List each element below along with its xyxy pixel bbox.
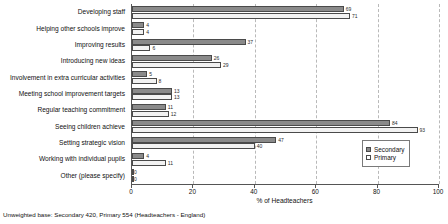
bar-primary — [132, 62, 221, 68]
bar-secondary — [132, 104, 166, 110]
bar-row: 8493 — [132, 119, 439, 135]
bar-value-label: 6 — [150, 45, 155, 51]
bar-group: 26 — [132, 55, 439, 61]
legend-label: Secondary — [374, 146, 405, 153]
bar-secondary — [132, 120, 390, 126]
bar-value-label: 69 — [344, 6, 352, 12]
bar-group: 11 — [132, 104, 439, 110]
bar-row: 2629 — [132, 53, 439, 69]
category-label: Regular teaching commitment — [0, 106, 125, 114]
bar-value-label: 93 — [418, 127, 426, 133]
x-tick-label: 40 — [250, 188, 257, 196]
x-tick-label: 0 — [129, 188, 133, 196]
category-label: Improving results — [0, 41, 125, 49]
gridline — [439, 4, 440, 184]
bar-group: 13 — [132, 88, 439, 94]
bar-primary — [132, 160, 166, 166]
category-label: Meeting school improvement targets — [0, 90, 125, 98]
x-tick-label: 100 — [433, 188, 444, 196]
bar-secondary — [132, 153, 144, 159]
bar-secondary — [132, 39, 246, 45]
bar-group: 6 — [132, 45, 439, 51]
category-axis-labels: Developing staffHelping other schools im… — [0, 4, 128, 184]
x-tick-label: 20 — [189, 188, 196, 196]
bar-row: 1313 — [132, 86, 439, 102]
category-label: Working with individual pupils — [0, 155, 125, 163]
bar-group: 37 — [132, 39, 439, 45]
x-axis-ticks: 020406080100 — [131, 185, 438, 197]
bar-value-label: 40 — [255, 143, 263, 149]
x-tick-label: 60 — [312, 188, 319, 196]
bar-secondary — [132, 88, 172, 94]
bar-value-label: 11 — [166, 104, 173, 110]
bar-group: 84 — [132, 120, 439, 126]
footnote: Unweighted base: Secondary 420, Primary … — [3, 211, 205, 219]
category-label: Introducing new ideas — [0, 57, 125, 65]
bar-chart: Developing staffHelping other schools im… — [0, 0, 448, 224]
bar-group: 71 — [132, 13, 439, 19]
bar-primary — [132, 45, 150, 51]
bar-primary — [132, 143, 255, 149]
bar-value-label: 13 — [172, 94, 180, 100]
bar-secondary — [132, 71, 147, 77]
bar-primary — [132, 29, 144, 35]
bar-group: 69 — [132, 6, 439, 12]
bar-secondary — [132, 22, 144, 28]
category-label: Setting strategic vision — [0, 139, 125, 147]
legend: SecondaryPrimary — [362, 140, 410, 167]
bar-group: 29 — [132, 62, 439, 68]
bar-group: 0 — [132, 176, 439, 182]
bar-group: 0 — [132, 169, 439, 175]
bar-value-label: 4 — [144, 29, 149, 35]
bar-value-label: 37 — [246, 38, 254, 44]
bar-value-label: 8 — [157, 78, 162, 84]
bar-value-label: 29 — [221, 62, 229, 68]
bar-secondary — [132, 137, 276, 143]
bar-group: 93 — [132, 127, 439, 133]
legend-label: Primary — [374, 154, 396, 161]
bar-primary — [132, 94, 172, 100]
bar-group: 4 — [132, 29, 439, 35]
bar-value-label: 84 — [390, 120, 398, 126]
bar-row: 44 — [132, 20, 439, 36]
bar-row: 00 — [132, 168, 439, 184]
bar-secondary — [132, 55, 212, 61]
bar-value-label: 4 — [144, 22, 149, 28]
category-label: Other (please specify) — [0, 172, 125, 180]
bar-row: 1112 — [132, 102, 439, 118]
bar-value-label: 26 — [212, 55, 220, 61]
bar-value-label: 5 — [147, 71, 152, 77]
legend-item[interactable]: Secondary — [366, 146, 405, 153]
x-tick-label: 80 — [373, 188, 380, 196]
x-axis-title: % of Headteachers — [131, 197, 438, 205]
bar-primary — [132, 127, 418, 133]
bar-value-label: 0 — [132, 169, 137, 175]
bar-group: 8 — [132, 78, 439, 84]
bar-value-label: 47 — [276, 137, 284, 143]
category-label: Seeing children achieve — [0, 123, 125, 131]
bar-row: 6971 — [132, 4, 439, 20]
bar-group: 4 — [132, 22, 439, 28]
category-label: Involvement in extra curricular activiti… — [0, 74, 125, 82]
bar-group: 5 — [132, 71, 439, 77]
bar-value-label: 4 — [144, 153, 149, 159]
bar-row: 58 — [132, 69, 439, 85]
bar-secondary — [132, 6, 344, 12]
bar-row: 376 — [132, 37, 439, 53]
bar-group: 13 — [132, 94, 439, 100]
category-label: Helping other schools improve — [0, 25, 125, 33]
bar-primary — [132, 78, 157, 84]
legend-swatch-icon — [366, 155, 371, 160]
bar-primary — [132, 13, 350, 19]
category-label: Developing staff — [0, 8, 125, 16]
bar-value-label: 71 — [350, 12, 358, 18]
bar-value-label: 13 — [172, 87, 180, 93]
bar-primary — [132, 111, 169, 117]
legend-swatch-icon — [366, 147, 371, 152]
bar-value-label: 12 — [169, 111, 177, 117]
bar-group: 12 — [132, 111, 439, 117]
bar-value-label: 11 — [166, 160, 173, 166]
bar-value-label: 0 — [132, 176, 137, 182]
legend-item[interactable]: Primary — [366, 154, 405, 161]
